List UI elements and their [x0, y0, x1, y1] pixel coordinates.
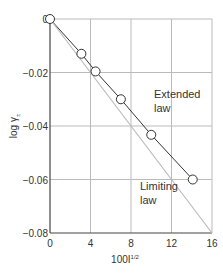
chart: 0481216 0−0.02−0.04−0.06−0.08 Extended l…	[0, 0, 223, 275]
data-point-marker	[77, 49, 86, 58]
data-point-marker	[188, 175, 197, 184]
y-tick-label: −0.06	[23, 175, 49, 186]
extended-law-label: Extended	[154, 88, 200, 100]
x-tick-label: 12	[166, 238, 178, 249]
x-tick-label: 8	[128, 238, 134, 249]
x-tick-label: 16	[206, 238, 218, 249]
data-point-marker	[91, 67, 100, 76]
data-point-marker	[46, 15, 55, 24]
extended-law-label-2: law	[154, 102, 171, 114]
y-tick-labels: 0−0.02−0.04−0.06−0.08	[23, 14, 49, 239]
y-tick-label: −0.08	[23, 228, 49, 239]
limiting-law-label-2: law	[140, 194, 157, 206]
y-tick-label: −0.02	[23, 68, 49, 79]
chart-svg: 0481216 0−0.02−0.04−0.06−0.08 Extended l…	[0, 0, 223, 275]
data-point-marker	[147, 130, 156, 139]
x-axis-label: 100I1/2	[111, 254, 139, 265]
y-axis-label: log γ±	[8, 113, 21, 138]
limiting-law-label: Limiting	[140, 180, 178, 192]
y-tick-label: −0.04	[23, 121, 49, 132]
x-tick-labels: 0481216	[47, 238, 218, 249]
x-tick-label: 4	[88, 238, 94, 249]
data-point-marker	[116, 95, 125, 104]
x-tick-label: 0	[47, 238, 53, 249]
series	[46, 15, 213, 234]
